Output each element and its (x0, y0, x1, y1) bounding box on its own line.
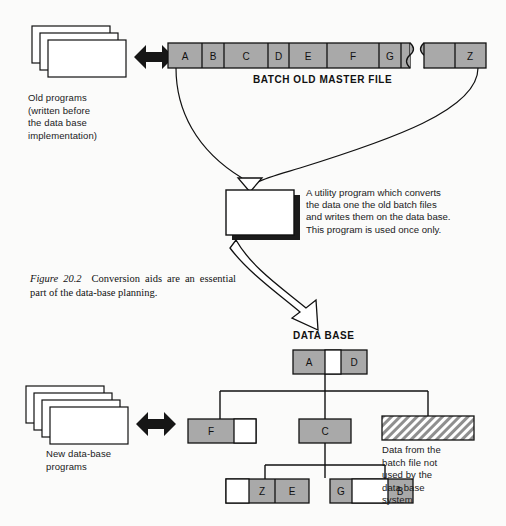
unused-note-line-2: batch file not (382, 457, 492, 470)
batch-file-title: BATCH OLD MASTER FILE (253, 74, 392, 85)
svg-text:Z: Z (259, 486, 265, 497)
svg-text:C: C (321, 426, 328, 437)
record-f: F (188, 419, 256, 443)
utility-text-line-2: the data one the old batch files (306, 199, 502, 211)
unused-note-line-4: data base (382, 482, 492, 495)
svg-text:Z: Z (467, 51, 473, 62)
database-root-record: A D (293, 350, 367, 374)
svg-text:C: C (242, 51, 249, 62)
svg-text:F: F (208, 426, 214, 437)
new-programs-label-line-2: programs (46, 461, 166, 474)
new-programs-card-stack (26, 386, 128, 444)
svg-text:E: E (305, 51, 312, 62)
svg-text:A: A (306, 357, 313, 368)
svg-text:B: B (210, 51, 217, 62)
funnel-to-utility-arrow-icon (176, 68, 478, 182)
bottom-bidirectional-arrow-icon (136, 412, 176, 436)
old-programs-label-line-1: Old programs (28, 92, 158, 105)
record-ze: Z E (226, 479, 309, 503)
svg-text:D: D (275, 51, 282, 62)
figure-canvas: A B C D E F G Z A D (0, 0, 506, 526)
utility-text-line-4: This program is used once only. (306, 224, 502, 236)
utility-program-box (226, 190, 300, 240)
unused-note-line-3: used by the (382, 469, 492, 482)
data-base-title: DATA BASE (293, 330, 354, 341)
unused-note-line-5: system (382, 494, 492, 507)
old-programs-card-stack (32, 26, 126, 77)
utility-text-line-3: and writes them on the data base. (306, 211, 502, 223)
figure-caption: Figure 20.2Conversion aids are an essent… (30, 272, 236, 299)
record-c: C (299, 419, 351, 443)
utility-program-description: A utility program which converts the dat… (306, 187, 502, 236)
new-programs-label: New data-base programs (46, 448, 166, 473)
unused-data-note: Data from the batch file not used by the… (382, 444, 492, 507)
figure-caption-title: Figure 20.2 (30, 273, 82, 284)
svg-text:A: A (182, 51, 189, 62)
svg-text:G: G (337, 486, 345, 497)
old-programs-label-line-3: the data base (28, 117, 158, 130)
svg-text:D: D (350, 357, 357, 368)
batch-old-master-file: A B C D E F G Z (168, 43, 486, 68)
svg-text:E: E (289, 486, 296, 497)
svg-text:G: G (386, 51, 394, 62)
old-programs-label: Old programs (written before the data ba… (28, 92, 158, 142)
utility-text-line-1: A utility program which converts (306, 187, 502, 199)
record-unused-hatched (382, 416, 474, 440)
utility-to-database-arrow-icon (230, 240, 318, 330)
old-programs-label-line-2: (written before (28, 105, 158, 118)
old-programs-label-line-4: implementation) (28, 130, 158, 143)
unused-note-line-1: Data from the (382, 444, 492, 457)
svg-text:F: F (350, 51, 356, 62)
new-programs-label-line-1: New data-base (46, 448, 166, 461)
